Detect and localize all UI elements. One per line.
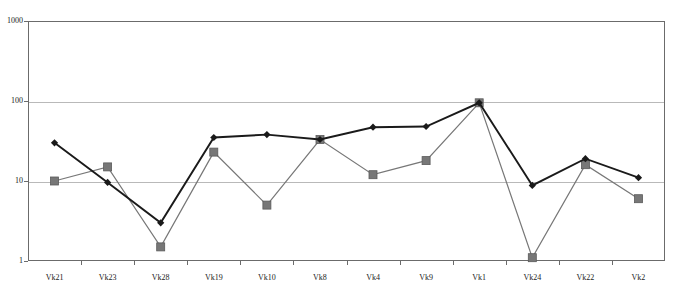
y-tick-label-100: 100	[11, 97, 23, 105]
y-tick-label-1000: 1000	[7, 17, 23, 25]
x-tick-label-Vk19: Vk19	[205, 273, 223, 282]
x-tick-label-Vk9: Vk9	[419, 273, 433, 282]
x-tick-mark	[134, 261, 135, 265]
plot-area	[28, 21, 665, 261]
x-tick-label-Vk24: Vk24	[523, 273, 541, 282]
chart-container: 1000100101 Vk21Vk23Vk28Vk19Vk10Vk8Vk4Vk9…	[0, 0, 683, 296]
x-tick-mark	[612, 261, 613, 265]
x-tick-label-Vk22: Vk22	[576, 273, 594, 282]
gridline-10	[29, 182, 664, 183]
x-tick-label-Vk28: Vk28	[152, 273, 170, 282]
x-tick-mark	[506, 261, 507, 265]
x-tick-mark	[559, 261, 560, 265]
x-tick-label-Vk10: Vk10	[258, 273, 276, 282]
x-tick-mark	[187, 261, 188, 265]
x-tick-label-Vk1: Vk1	[472, 273, 486, 282]
x-tick-label-Vk8: Vk8	[313, 273, 327, 282]
y-tick-label-10: 10	[15, 177, 23, 185]
x-axis: Vk21Vk23Vk28Vk19Vk10Vk8Vk4Vk9Vk1Vk24Vk22…	[28, 261, 665, 296]
x-tick-mark	[453, 261, 454, 265]
x-tick-label-Vk21: Vk21	[46, 273, 64, 282]
x-tick-label-Vk23: Vk23	[99, 273, 117, 282]
y-axis: 1000100101	[0, 0, 28, 296]
x-tick-mark	[293, 261, 294, 265]
gridline-100	[29, 102, 664, 103]
y-tick-label-1: 1	[19, 257, 23, 265]
x-tick-mark	[347, 261, 348, 265]
x-tick-label-Vk2: Vk2	[632, 273, 646, 282]
x-tick-label-Vk4: Vk4	[366, 273, 380, 282]
x-tick-mark	[81, 261, 82, 265]
x-tick-mark	[240, 261, 241, 265]
x-tick-mark	[400, 261, 401, 265]
